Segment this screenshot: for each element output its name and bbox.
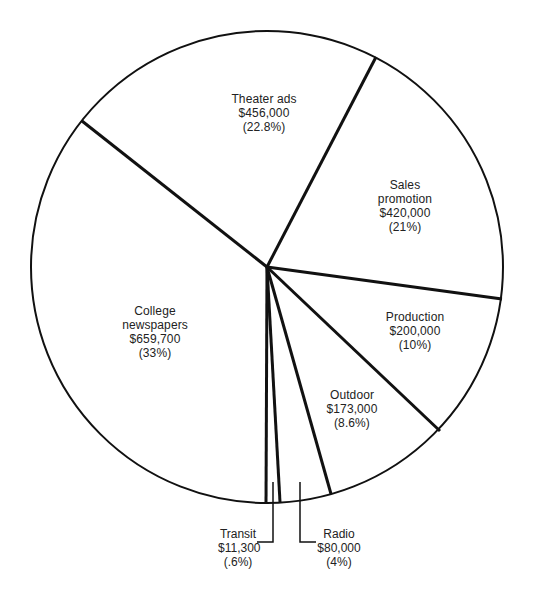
label-college-newspapers: College newspapers $659,700 (33%) xyxy=(122,304,188,360)
pie-chart: Theater ads $456,000 (22.8%) Sales promo… xyxy=(0,0,533,593)
college-percent: (33%) xyxy=(122,346,188,360)
label-production: Production $200,000 (10%) xyxy=(386,310,444,352)
theater-value: $456,000 xyxy=(231,106,296,120)
sales-value: $420,000 xyxy=(378,206,432,220)
theater-percent: (22.8%) xyxy=(231,120,296,134)
label-sales-promotion: Sales promotion $420,000 (21%) xyxy=(378,178,432,234)
label-radio: Radio $80,000 (4%) xyxy=(315,527,363,569)
radio-percent: (4%) xyxy=(315,555,363,569)
production-name: Production xyxy=(386,310,444,324)
college-name-line2: newspapers xyxy=(122,318,188,332)
radio-name: Radio xyxy=(315,527,363,541)
transit-name: Transit xyxy=(218,527,258,541)
college-value: $659,700 xyxy=(122,332,188,346)
radio-value: $80,000 xyxy=(315,541,363,555)
label-outdoor: Outdoor $173,000 (8.6%) xyxy=(327,388,378,430)
transit-percent: (.6%) xyxy=(218,555,258,569)
sales-name-line1: Sales xyxy=(378,178,432,192)
label-theater-ads: Theater ads $456,000 (22.8%) xyxy=(231,92,296,134)
outdoor-name: Outdoor xyxy=(327,388,378,402)
label-transit: Transit $11,300 (.6%) xyxy=(218,527,258,569)
production-value: $200,000 xyxy=(386,324,444,338)
pie-chart-graphic xyxy=(0,0,533,593)
divider-transit-college xyxy=(266,267,267,503)
outdoor-percent: (8.6%) xyxy=(327,416,378,430)
college-name-line1: College xyxy=(122,304,188,318)
sales-name-line2: promotion xyxy=(378,192,432,206)
production-percent: (10%) xyxy=(386,338,444,352)
transit-value: $11,300 xyxy=(218,541,258,555)
sales-percent: (21%) xyxy=(378,220,432,234)
outdoor-value: $173,000 xyxy=(327,402,378,416)
theater-name: Theater ads xyxy=(231,92,296,106)
